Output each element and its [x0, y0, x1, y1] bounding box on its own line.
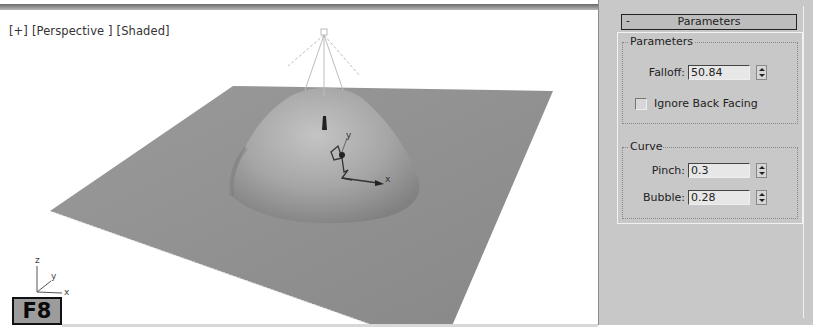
- ignore-back-facing-label[interactable]: Ignore Back Facing: [654, 97, 758, 110]
- curve-group: Curve Pinch: Bubble:: [622, 147, 798, 219]
- pinch-input[interactable]: [688, 163, 750, 178]
- bubble-label: Bubble:: [623, 191, 685, 204]
- curve-group-title: Curve: [629, 140, 663, 153]
- spinner-up-icon[interactable]: [759, 193, 765, 196]
- ignore-back-facing-row[interactable]: Ignore Back Facing: [635, 97, 758, 110]
- rollout-title: Parameters: [678, 15, 741, 28]
- viewport-view-button[interactable]: [Perspective ]: [32, 24, 113, 38]
- selected-vertex-gizmo[interactable]: [288, 29, 360, 96]
- spinner-up-icon[interactable]: [759, 68, 765, 71]
- svg-text:x: x: [64, 287, 70, 297]
- spinner-down-icon[interactable]: [759, 172, 765, 175]
- falloff-row: Falloff:: [623, 65, 793, 80]
- command-panel-inner: - Parameters Parameters Falloff: Ignore …: [603, 6, 804, 318]
- falloff-label: Falloff:: [623, 66, 685, 79]
- svg-text:y: y: [51, 271, 57, 281]
- svg-text:y: y: [346, 130, 352, 140]
- bubble-row: Bubble:: [623, 190, 793, 205]
- spinner-up-icon[interactable]: [759, 166, 765, 169]
- scene-render[interactable]: y x z y x: [0, 0, 598, 335]
- perspective-viewport[interactable]: y x z y x [+][Perspective ][Shaded] F8: [0, 0, 598, 335]
- bubble-input[interactable]: [688, 190, 750, 205]
- parameters-rollout-header[interactable]: - Parameters: [621, 14, 797, 30]
- collapse-icon[interactable]: -: [626, 14, 630, 28]
- svg-text:z: z: [35, 255, 40, 265]
- svg-text:x: x: [385, 174, 391, 184]
- viewport-bottom-border: [62, 324, 598, 327]
- pinch-row: Pinch:: [623, 163, 793, 178]
- command-panel: - Parameters Parameters Falloff: Ignore …: [598, 0, 813, 325]
- viewport-label-menu[interactable]: [+][Perspective ][Shaded]: [9, 24, 174, 38]
- spinner-down-icon[interactable]: [759, 199, 765, 202]
- parameters-group-title: Parameters: [629, 35, 694, 48]
- falloff-input[interactable]: [688, 65, 750, 80]
- ignore-back-facing-checkbox[interactable]: [635, 98, 647, 110]
- falloff-spinner[interactable]: [756, 65, 767, 80]
- pinch-label: Pinch:: [623, 164, 685, 177]
- bubble-spinner[interactable]: [756, 190, 767, 205]
- parameters-rollout-body: Parameters Falloff: Ignore Back Facing C…: [617, 32, 803, 224]
- viewport-menu-button[interactable]: [+]: [9, 24, 28, 38]
- f8-key-badge: F8: [12, 297, 62, 325]
- viewport-shading-button[interactable]: [Shaded]: [117, 24, 170, 38]
- parameters-group: Parameters Falloff: Ignore Back Facing: [622, 42, 798, 124]
- axis-tripod-icon: z y x: [35, 255, 70, 297]
- spinner-down-icon[interactable]: [759, 74, 765, 77]
- pinch-spinner[interactable]: [756, 163, 767, 178]
